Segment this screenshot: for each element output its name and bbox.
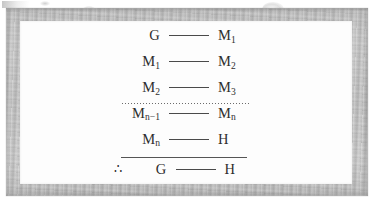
inference-rule-line bbox=[121, 157, 247, 158]
premise-row-4: Mn−1 Mn bbox=[110, 106, 262, 128]
frame-edge-top bbox=[6, 8, 368, 12]
conclusion-left-term: G bbox=[127, 162, 167, 177]
premise-4-left-term: Mn−1 bbox=[120, 106, 160, 121]
relation-dash bbox=[169, 61, 209, 62]
conclusion-right-term: H bbox=[225, 162, 259, 177]
premise-3-right-term: M3 bbox=[218, 80, 252, 95]
frame-edge-left bbox=[6, 8, 10, 196]
relation-dash bbox=[176, 169, 216, 170]
textured-picture-frame: G M1 M1 M2 M2 M3 Mn− bbox=[6, 8, 368, 196]
premise-row-2: M1 M2 bbox=[110, 54, 262, 76]
white-paper-panel: G M1 M1 M2 M2 M3 Mn− bbox=[20, 21, 352, 184]
relation-dash bbox=[169, 113, 209, 114]
frame-edge-bottom bbox=[6, 191, 368, 196]
derivation-block: G M1 M1 M2 M2 M3 Mn− bbox=[20, 21, 352, 184]
premise-2-right-term: M2 bbox=[218, 54, 252, 69]
premise-5-right-term: H bbox=[218, 132, 252, 147]
premise-row-5: Mn H bbox=[110, 132, 262, 154]
premise-1-left-term: G bbox=[120, 28, 160, 43]
premise-row-1: G M1 bbox=[110, 28, 262, 50]
premise-5-left-term: Mn bbox=[120, 132, 160, 147]
relation-dash bbox=[169, 35, 209, 36]
premise-1-right-term: M1 bbox=[218, 28, 252, 43]
figure-canvas: G M1 M1 M2 M2 M3 Mn− bbox=[0, 0, 376, 210]
frame-edge-right bbox=[363, 8, 368, 196]
premise-3-left-term: M2 bbox=[120, 80, 160, 95]
premise-row-3: M2 M3 bbox=[110, 80, 262, 102]
therefore-icon: ∴ bbox=[114, 162, 122, 175]
conclusion-row: ∴ G H bbox=[110, 162, 262, 184]
relation-dash bbox=[169, 87, 209, 88]
dotted-ellipsis-separator bbox=[122, 103, 250, 104]
premise-2-left-term: M1 bbox=[120, 54, 160, 69]
premise-4-right-term: Mn bbox=[218, 106, 252, 121]
relation-dash bbox=[169, 139, 209, 140]
scan-artifact-top-left bbox=[2, 1, 36, 8]
scan-artifact-top-left-2 bbox=[40, 1, 50, 6]
